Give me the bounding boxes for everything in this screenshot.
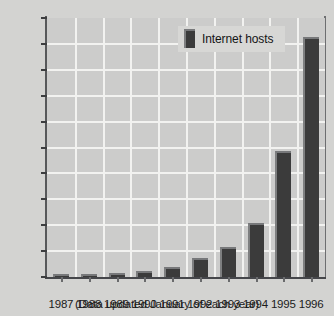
gridline-vertical — [269, 18, 271, 277]
gridline-vertical — [75, 18, 77, 277]
x-tick-mark — [172, 277, 174, 282]
gridline-vertical — [158, 18, 160, 277]
bar-swatch-icon — [184, 29, 195, 48]
gridline-vertical — [297, 18, 299, 277]
gridline-vertical — [214, 18, 216, 277]
x-tick-mark — [228, 277, 230, 282]
gridline-vertical — [186, 18, 188, 277]
y-tick-mark — [41, 250, 47, 252]
bar-1995 — [275, 151, 291, 277]
x-tick-mark — [200, 277, 202, 282]
bar-1993 — [220, 247, 236, 277]
bar-1994 — [248, 223, 264, 277]
y-tick-mark — [41, 147, 47, 149]
bar-1992 — [192, 258, 208, 277]
x-tick-mark — [61, 277, 63, 282]
y-tick-mark — [41, 198, 47, 200]
bar-1996 — [303, 37, 319, 277]
x-tick-mark — [256, 277, 258, 282]
plot-area: 01,0002,0003,0004,0005,0006,0007,0008,00… — [47, 18, 325, 277]
x-tick-mark — [283, 277, 285, 282]
y-tick-mark — [41, 17, 47, 19]
y-tick-mark — [41, 224, 47, 226]
gridline-vertical — [130, 18, 132, 277]
gridline-vertical — [103, 18, 105, 277]
gridline-vertical — [242, 18, 244, 277]
y-tick-mark — [41, 43, 47, 45]
y-tick-mark — [41, 276, 47, 278]
chart-footnote: (Data updated January of each year) — [0, 298, 334, 310]
y-tick-mark — [41, 172, 47, 174]
y-tick-mark — [41, 121, 47, 123]
x-tick-mark — [144, 277, 146, 282]
bar-1991 — [164, 267, 180, 277]
x-tick-mark — [311, 277, 313, 282]
x-tick-mark — [89, 277, 91, 282]
legend-entry-label: Internet hosts — [202, 32, 273, 46]
y-tick-mark — [41, 69, 47, 71]
x-tick-mark — [117, 277, 119, 282]
internet-hosts-bar-chart: 01,0002,0003,0004,0005,0006,0007,0008,00… — [0, 0, 334, 316]
y-tick-mark — [41, 95, 47, 97]
chart-legend: Internet hosts — [178, 26, 285, 52]
